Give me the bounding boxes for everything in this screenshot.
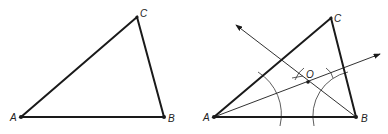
tick-mark (292, 76, 303, 78)
vertex-c-dot (135, 15, 138, 18)
vertex-a-dot (212, 115, 216, 119)
label-c: C (334, 13, 342, 24)
angle-bisector-b (236, 25, 356, 117)
vertex-b-dot (354, 115, 358, 119)
label-o: O (306, 69, 314, 80)
label-b: B (168, 113, 175, 124)
label-c: C (140, 8, 148, 19)
incenter-dot (306, 80, 310, 84)
vertex-a-dot (19, 115, 23, 119)
label-b: B (361, 113, 368, 124)
triangle-outline (214, 18, 356, 117)
label-a: A (9, 112, 17, 123)
angle-bisector-a (214, 54, 380, 117)
vertex-b-dot (162, 115, 166, 119)
geometry-diagram: A B C A B C O (0, 0, 388, 134)
left-triangle: A B C (9, 8, 175, 124)
right-triangle: A B C O (202, 13, 380, 126)
triangle-outline (21, 17, 164, 117)
vertex-c-dot (329, 16, 332, 19)
label-a: A (202, 112, 210, 123)
